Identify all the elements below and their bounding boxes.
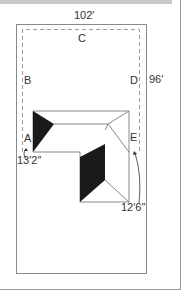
arrow-e [135,153,140,204]
setback-a-label: 13′2″ [17,155,41,166]
arrow-e-head [133,151,137,155]
point-c-label: C [78,33,86,44]
point-b-label: B [24,75,31,86]
point-d-label: D [130,75,138,86]
lot-width-label: 102′ [74,10,94,21]
arrow-a-head [24,148,28,151]
point-e-label: E [130,132,137,143]
point-a-label: A [24,133,31,144]
site-plan [0,0,187,296]
setback-e-label: 12′6″ [121,202,145,213]
lot-depth-label: 96′ [149,74,163,85]
